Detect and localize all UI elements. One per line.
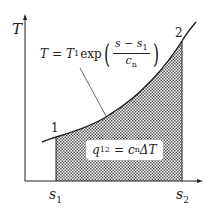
area-equation: q12 = cnΔT: [92, 144, 157, 156]
s2-sub: 2: [183, 195, 189, 205]
area-eq-sign: =: [114, 144, 124, 156]
point-2-label: 2: [175, 27, 183, 39]
eq-sign: =: [52, 48, 62, 60]
eq-num-main: s − s: [115, 37, 143, 50]
eq-lhs: T: [40, 48, 48, 60]
area-rhs: c: [128, 144, 135, 156]
y-axis-arrow-icon: [23, 14, 27, 20]
eq-fraction: s − s1 cn: [113, 38, 150, 69]
point-1-label: 1: [51, 122, 59, 134]
x-axis-arrow-icon: [197, 179, 203, 183]
left-paren: (: [104, 41, 110, 67]
s1-sub: 1: [56, 195, 62, 205]
eq-num-sub: 1: [142, 43, 147, 52]
eq-func: exp: [80, 48, 102, 60]
eq-denominator: cn: [126, 54, 137, 69]
x-tick-s1: s1: [49, 187, 62, 205]
area-rhs-tail: ΔT: [140, 144, 157, 156]
x-tick-s2: s2: [176, 187, 189, 205]
eq-den-sub: n: [132, 60, 137, 69]
right-paren: ): [153, 41, 159, 67]
equation-leader-line: [80, 68, 106, 116]
curve-equation: T = T1 exp ( s − s1 cn ): [40, 38, 161, 69]
eq-coef: T: [66, 48, 74, 60]
eq-coef-sub: 1: [74, 50, 79, 58]
area-lhs-sub: 12: [100, 146, 110, 154]
y-axis-label: T: [12, 22, 22, 37]
eq-numerator: s − s1: [113, 38, 150, 54]
area-label-box: q12 = cnΔT: [86, 140, 163, 160]
area-lhs: q: [92, 144, 100, 156]
